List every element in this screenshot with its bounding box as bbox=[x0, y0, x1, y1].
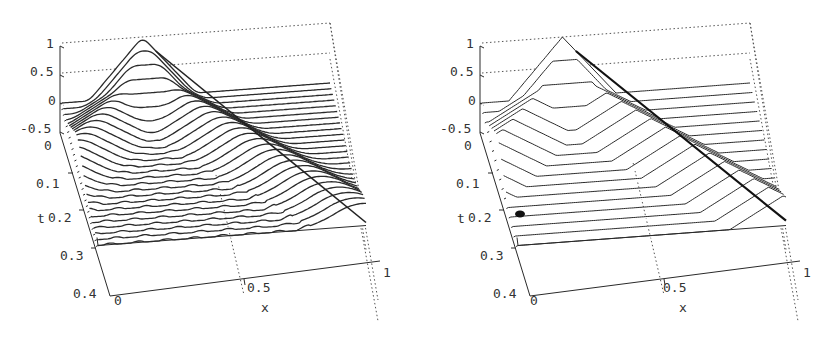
t-axis-label: t bbox=[457, 212, 465, 225]
t-tick-0: 0 bbox=[44, 139, 52, 152]
right-waterfall-plot: 1 0.5 0 -0.5 0 0.1 0.2 0.3 0.4 0 0.5 1 x… bbox=[420, 0, 829, 341]
z-tick-minus-0.5: -0.5 bbox=[440, 122, 471, 135]
t-tick-0.1: 0.1 bbox=[36, 177, 59, 190]
x-tick-1: 1 bbox=[383, 266, 391, 279]
t-tick-0.1: 0.1 bbox=[456, 177, 479, 190]
x-tick-1: 1 bbox=[803, 266, 811, 279]
z-tick-1: 1 bbox=[46, 37, 54, 50]
left-waterfall-plot: 1 0.5 0 -0.5 0 0.1 0.2 0.3 0.4 0 0.5 1 x… bbox=[0, 0, 414, 341]
t-tick-0.4: 0.4 bbox=[493, 287, 516, 300]
z-tick-0.5: 0.5 bbox=[450, 65, 473, 78]
z-tick-1: 1 bbox=[466, 37, 474, 50]
z-tick-0: 0 bbox=[48, 94, 56, 107]
left-plot-canvas bbox=[0, 0, 414, 341]
x-tick-0.5: 0.5 bbox=[247, 281, 270, 294]
x-tick-0: 0 bbox=[530, 294, 538, 307]
x-tick-0.5: 0.5 bbox=[663, 281, 686, 294]
z-tick-minus-0.5: -0.5 bbox=[20, 122, 51, 135]
x-axis-label: x bbox=[679, 301, 687, 314]
t-tick-0.4: 0.4 bbox=[73, 287, 96, 300]
t-tick-0.3: 0.3 bbox=[60, 249, 83, 262]
x-tick-0: 0 bbox=[114, 294, 122, 307]
z-tick-0.5: 0.5 bbox=[30, 65, 53, 78]
t-axis-label: t bbox=[37, 212, 45, 225]
t-tick-0.3: 0.3 bbox=[480, 249, 503, 262]
t-tick-0: 0 bbox=[464, 139, 472, 152]
z-tick-0: 0 bbox=[468, 94, 476, 107]
figure: 1 0.5 0 -0.5 0 0.1 0.2 0.3 0.4 0 0.5 1 x… bbox=[0, 0, 829, 341]
t-tick-0.2: 0.2 bbox=[48, 211, 71, 224]
t-tick-0.2: 0.2 bbox=[468, 211, 491, 224]
x-axis-label: x bbox=[261, 301, 269, 314]
right-plot-canvas bbox=[420, 0, 829, 341]
